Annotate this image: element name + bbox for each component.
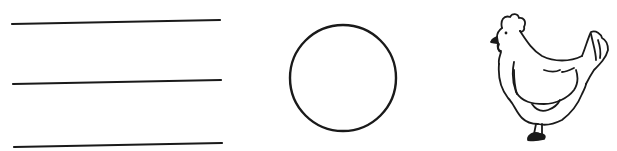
hen-foot	[528, 133, 545, 140]
hen-back	[520, 31, 582, 61]
hen-icon	[491, 14, 608, 140]
hen-wing-detail-1	[544, 70, 560, 72]
hen-head	[492, 28, 502, 64]
hen-tail-feather-1	[591, 34, 596, 60]
answer-line-3[interactable]	[14, 143, 222, 147]
hen-wing	[513, 62, 577, 104]
hen-illustration	[470, 0, 617, 151]
hen-wing-detail-2	[562, 68, 574, 72]
answer-line-2[interactable]	[13, 80, 221, 84]
worksheet	[0, 0, 617, 151]
answer-lines	[0, 0, 250, 151]
hen-wattle	[498, 44, 501, 51]
hen-wing-line	[514, 70, 517, 94]
circle-shape	[270, 20, 420, 151]
hen-tail-feather-2	[598, 40, 600, 58]
hen-eye	[505, 32, 508, 35]
answer-line-1[interactable]	[12, 20, 220, 24]
circle-outline	[290, 25, 396, 131]
hen-comb	[501, 14, 525, 32]
